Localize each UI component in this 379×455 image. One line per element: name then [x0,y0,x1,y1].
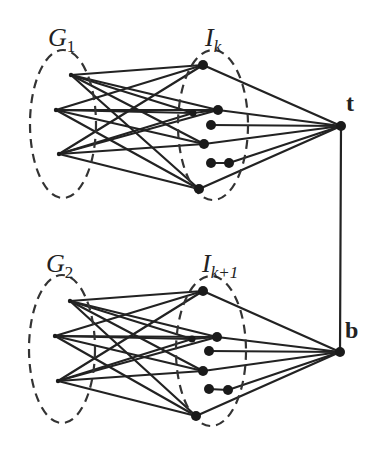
label-b: b [345,317,358,343]
i-vertex [191,411,201,421]
edges [55,65,341,416]
g-vertex [57,152,61,156]
i-vertex [198,366,208,376]
i-vertex [194,184,204,194]
i-vertex [190,110,197,117]
g-i-edge [58,337,217,381]
g-i-edge [55,336,203,371]
g-vertex [68,299,72,303]
i-vertex [206,158,216,168]
g-ellipse-lower [29,275,95,423]
label-g2: G2 [46,249,73,282]
edge-t-b [340,126,341,352]
i-vertex [198,286,208,296]
label-ik: Ik [204,23,222,56]
i-hub-edge [209,351,340,352]
label-t: t [346,90,354,116]
g-vertex [56,379,60,383]
vertex-b [335,347,345,357]
g-ellipse-upper [30,50,96,198]
i-vertex [198,60,208,70]
i-vertex [204,384,214,394]
graph-diagram: G1 Ik G2 Ik+1 t b [0,0,379,455]
i-vertex [204,346,214,356]
g-vertex [54,108,58,112]
vertex-t [336,121,346,131]
g-i-edge [56,65,203,110]
i-vertex [212,332,222,342]
g-vertex [53,334,57,338]
label-g1: G1 [48,23,75,56]
i-vertex [213,105,223,115]
i-vertex [189,336,196,343]
g-i-edge [56,110,204,144]
i-hub-edge [211,125,341,126]
i-vertex [199,139,209,149]
i-vertex [206,120,216,130]
i-vertex [224,158,234,168]
label-ik1: Ik+1 [201,249,238,282]
i-vertex [223,385,233,395]
g-vertex [69,73,73,77]
